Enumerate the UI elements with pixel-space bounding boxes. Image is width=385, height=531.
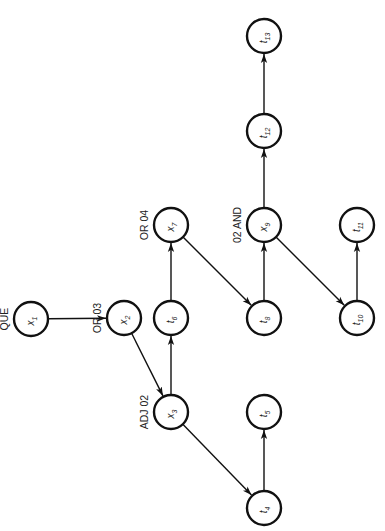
- edge-x7-t8: [183, 237, 251, 305]
- edges-layer: [48, 54, 357, 495]
- node-tag-x9: 02 AND: [231, 206, 243, 243]
- graph-diagram: x1QUEx2OR 03x3ADJ 02t4t5t6x7OR 04t8x902 …: [0, 0, 385, 531]
- edge-x2-x3: [132, 333, 163, 396]
- node-t13: t13: [247, 19, 281, 53]
- node-x1: x1QUE: [0, 302, 48, 336]
- node-x9: x902 AND: [231, 206, 281, 243]
- node-t4: t4: [247, 491, 281, 525]
- node-t5: t5: [247, 395, 281, 429]
- node-t12: t12: [247, 114, 281, 148]
- node-tag-x2: OR 03: [91, 303, 103, 334]
- node-tag-x1: QUE: [0, 308, 10, 331]
- node-t10: t10: [340, 301, 374, 335]
- node-x3: x3ADJ 02: [138, 395, 188, 430]
- node-x7: x7OR 04: [138, 208, 188, 242]
- nodes-layer: x1QUEx2OR 03x3ADJ 02t4t5t6x7OR 04t8x902 …: [0, 19, 374, 525]
- node-t11: t11: [340, 208, 374, 242]
- node-t6: t6: [154, 301, 188, 335]
- edge-x3-t4: [183, 424, 252, 495]
- node-t8: t8: [247, 301, 281, 335]
- node-tag-x3: ADJ 02: [138, 395, 150, 430]
- node-tag-x7: OR 04: [138, 210, 150, 241]
- node-x2: x2OR 03: [91, 301, 141, 335]
- edge-x9-t10: [276, 237, 344, 305]
